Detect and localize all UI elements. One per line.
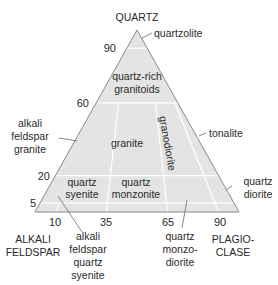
field-alkali-feldspar-quartz-syenite-3: quartz <box>73 256 102 268</box>
field-quartz-monzonite-1: quartz <box>121 176 150 188</box>
q-tick-90: 90 <box>104 42 116 54</box>
field-quartz-monzonite-2: monzonite <box>112 188 161 200</box>
field-quartz-rich-granitoids-2: granitoids <box>114 83 160 95</box>
q-tick-5: 5 <box>30 197 36 209</box>
field-quartz-rich-granitoids-1: quartz-rich <box>112 70 162 82</box>
corner-label-plagio: PLAGIO- <box>212 233 255 245</box>
field-alkali-feldspar-quartz-syenite-1: alkali <box>76 230 100 242</box>
field-granite: granite <box>111 137 143 149</box>
field-quartz-syenite-1: quartz <box>67 176 96 188</box>
p-tick-90: 90 <box>214 216 226 228</box>
field-alkali-feldspar-granite-3: granite <box>14 143 46 155</box>
p-tick-65: 65 <box>162 216 174 228</box>
field-quartz-diorite-1: quartz <box>243 175 272 187</box>
corner-label-clase: CLASE <box>216 246 250 258</box>
p-tick-35: 35 <box>100 216 112 228</box>
field-quartz-monzodiorite-3: diorite <box>166 256 195 268</box>
p-tick-10: 10 <box>49 216 61 228</box>
field-alkali-feldspar-granite-1: alkali <box>18 117 42 129</box>
field-tonalite: tonalite <box>209 127 243 139</box>
corner-label-alkali: ALKALI <box>15 233 51 245</box>
corner-label-feldspar: FELDSPAR <box>6 246 61 258</box>
q-tick-20: 20 <box>38 170 50 182</box>
field-alkali-feldspar-granite-2: feldspar <box>11 130 49 142</box>
q-tick-60: 60 <box>77 97 89 109</box>
corner-label-quartz: QUARTZ <box>116 11 160 23</box>
field-quartz-monzodiorite-1: quartz <box>165 230 194 242</box>
field-quartzolite: quartzolite <box>154 27 203 39</box>
field-quartz-monzodiorite-2: monzo- <box>162 243 198 255</box>
field-quartz-syenite-2: syenite <box>65 188 98 200</box>
field-alkali-feldspar-quartz-syenite-4: syenite <box>71 269 104 281</box>
qapf-diagram: QUARTZ ALKALI FELDSPAR PLAGIO- CLASE 90 … <box>0 0 278 285</box>
field-alkali-feldspar-quartz-syenite-2: feldspar <box>69 243 107 255</box>
field-quartz-diorite-2: diorite <box>244 188 273 200</box>
